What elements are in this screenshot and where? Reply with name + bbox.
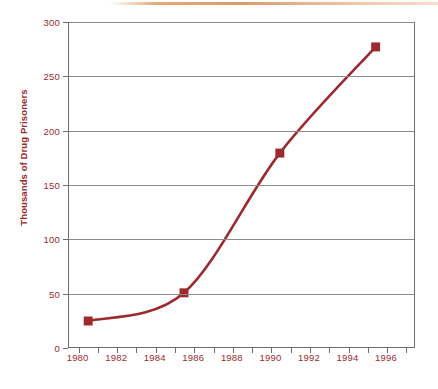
y-tick-mark bbox=[63, 294, 68, 295]
x-tick-label: 1990 bbox=[259, 352, 281, 363]
plot-area bbox=[68, 22, 415, 348]
gridline bbox=[69, 294, 414, 295]
x-tick-label: 1988 bbox=[221, 352, 243, 363]
x-axis-tick-labels: 198019821984198619881990199219941996 bbox=[68, 352, 415, 370]
y-axis-title: Thousands of Drug Prisoners bbox=[18, 58, 29, 258]
y-tick-label: 150 bbox=[44, 180, 60, 191]
y-tick-mark bbox=[63, 348, 68, 349]
y-tick-mark bbox=[63, 76, 68, 77]
y-tick-label: 100 bbox=[44, 234, 60, 245]
gridline bbox=[69, 131, 414, 132]
y-axis-tick-labels: 050100150200250300 bbox=[32, 22, 60, 348]
x-tick-label: 1994 bbox=[337, 352, 359, 363]
gridline bbox=[69, 239, 414, 240]
y-tick-mark bbox=[63, 131, 68, 132]
data-point-marker bbox=[371, 42, 380, 51]
y-tick-mark bbox=[63, 22, 68, 23]
x-tick-label: 1996 bbox=[375, 352, 397, 363]
gridline bbox=[69, 185, 414, 186]
gridline bbox=[69, 22, 414, 23]
gridline bbox=[69, 76, 414, 77]
data-point-marker bbox=[84, 317, 93, 326]
y-tick-label: 0 bbox=[55, 343, 60, 354]
x-tick-label: 1980 bbox=[67, 352, 89, 363]
line-chart: Thousands of Drug Prisoners 050100150200… bbox=[0, 0, 438, 389]
series-path bbox=[88, 47, 376, 321]
x-tick-label: 1982 bbox=[105, 352, 127, 363]
y-tick-label: 50 bbox=[49, 288, 60, 299]
y-tick-mark bbox=[63, 185, 68, 186]
x-tick-label: 1984 bbox=[144, 352, 166, 363]
y-tick-label: 200 bbox=[44, 125, 60, 136]
x-tick-label: 1992 bbox=[298, 352, 320, 363]
x-tick-label: 1986 bbox=[182, 352, 204, 363]
y-tick-mark bbox=[63, 239, 68, 240]
data-point-marker bbox=[275, 149, 284, 158]
y-tick-label: 300 bbox=[44, 17, 60, 28]
y-tick-label: 250 bbox=[44, 71, 60, 82]
